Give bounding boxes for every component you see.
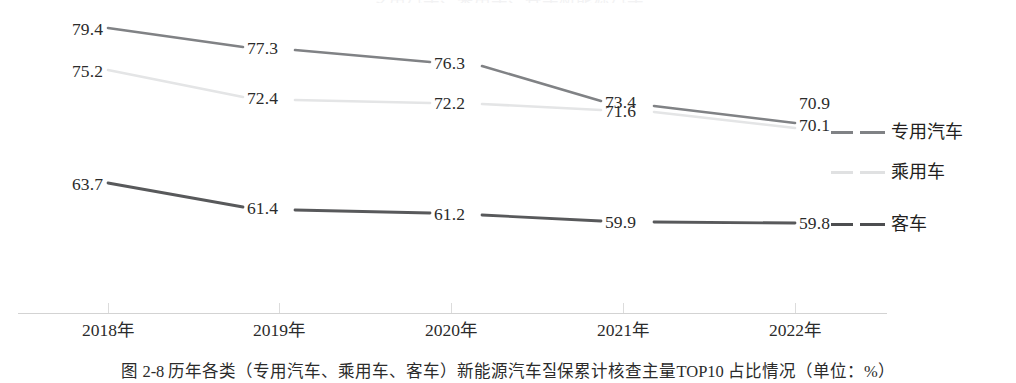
legend-item-chengyongche[interactable]: 乘用车 <box>831 152 1011 192</box>
data-label-zhuanyongqiche-2019: 77.3 <box>247 40 278 58</box>
data-label-zhuanyongqiche-2020: 76.3 <box>434 55 465 73</box>
legend-label-zhuanyongqiche: 专用汽车 <box>891 123 963 141</box>
x-axis-label-2020: 2020年 <box>425 322 477 340</box>
data-label-zhuanyongqiche-2018: 79.4 <box>72 21 103 39</box>
data-label-keche-2020: 61.2 <box>434 206 465 224</box>
legend-swatch-zhuanyongqiche-icon <box>831 126 885 138</box>
data-label-keche-2018: 63.7 <box>72 176 103 194</box>
data-label-chengyongche-2021: 71.6 <box>605 103 636 121</box>
data-label-keche-2019: 61.4 <box>247 200 278 218</box>
data-label-chengyongche-2022: 70.1 <box>799 117 830 135</box>
x-tick-2022 <box>795 303 796 313</box>
x-axis-label-2021: 2021年 <box>597 322 649 340</box>
figure-caption: 图 2-8 历年各类（专用汽车、乘用车、客车）新能源汽车질保累计核查主量TOP1… <box>0 362 1016 383</box>
data-label-chengyongche-2019: 72.4 <box>247 90 278 108</box>
data-label-chengyongche-2018: 75.2 <box>72 63 103 81</box>
data-label-keche-2021: 59.9 <box>605 214 636 232</box>
data-label-keche-2022: 59.8 <box>799 215 830 233</box>
x-axis-label-2022: 2022年 <box>769 322 821 340</box>
legend-swatch-chengyongche-icon <box>831 166 885 178</box>
x-axis-line <box>18 313 887 314</box>
data-label-chengyongche-2020: 72.2 <box>434 95 465 113</box>
x-tick-2021 <box>623 303 624 313</box>
x-axis-label-2018: 2018年 <box>82 322 134 340</box>
chart-legend: 专用汽车 乘用车 客车 <box>831 112 1011 244</box>
x-axis-label-2019: 2019年 <box>253 322 305 340</box>
legend-label-chengyongche: 乘用车 <box>891 163 945 181</box>
legend-item-keche[interactable]: 客车 <box>831 204 1011 244</box>
data-label-zhuanyongqiche-2022: 70.9 <box>799 95 830 113</box>
legend-item-zhuanyongqiche[interactable]: 专用汽车 <box>831 112 1011 152</box>
x-tick-2020 <box>451 303 452 313</box>
legend-swatch-keche-icon <box>831 218 885 230</box>
plot-area: 79.4 77.3 76.3 73.4 70.9 75.2 72.4 72.2 … <box>0 0 1016 320</box>
legend-label-keche: 客车 <box>891 215 927 233</box>
x-tick-2018 <box>108 303 109 313</box>
x-tick-2019 <box>279 303 280 313</box>
